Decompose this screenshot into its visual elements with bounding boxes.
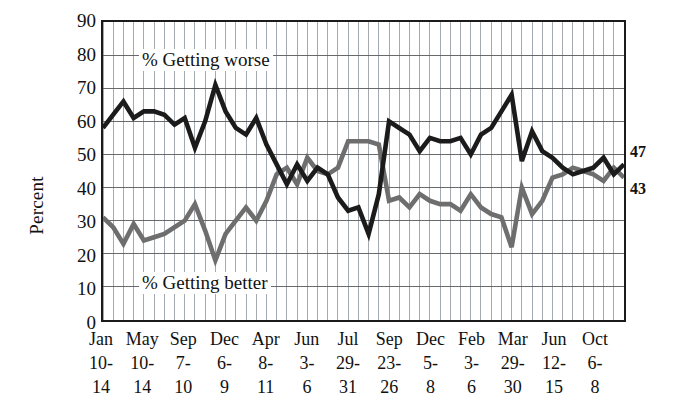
y-tick-label: 40 xyxy=(50,179,96,198)
end-value-label-worse: 47 xyxy=(630,143,646,161)
y-tick-label: 20 xyxy=(50,246,96,265)
x-tick-label: Oct6-8 xyxy=(563,328,627,400)
x-axis-tick-labels: Jan10-14May10-14Sep7-10Dec6-9Apr8-11Jun3… xyxy=(101,328,626,408)
y-tick-label: 30 xyxy=(50,212,96,231)
y-tick-label: 70 xyxy=(50,78,96,97)
end-value-label-better: 43 xyxy=(630,180,646,198)
chart-container: Percent 9080706050403020100 % Getting wo… xyxy=(0,0,674,411)
x-tick-line-month: Oct xyxy=(563,328,627,352)
plot-area: % Getting worse % Getting better xyxy=(101,20,626,322)
x-tick-line-end: 8 xyxy=(563,376,627,400)
y-tick-label: 10 xyxy=(50,279,96,298)
x-tick-line-start: 6- xyxy=(563,352,627,376)
y-tick-label: 50 xyxy=(50,145,96,164)
y-tick-label: 90 xyxy=(50,11,96,30)
y-tick-label: 80 xyxy=(50,45,96,64)
horizontal-gridlines xyxy=(103,55,624,287)
annotation-getting-worse: % Getting worse xyxy=(139,49,273,71)
annotation-getting-better: % Getting better xyxy=(139,272,271,294)
data-series-lines xyxy=(103,85,624,260)
y-tick-label: 60 xyxy=(50,112,96,131)
